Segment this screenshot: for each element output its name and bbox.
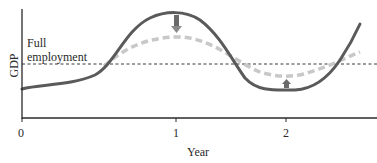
up-arrow-icon (282, 79, 291, 88)
down-arrow-icon (171, 15, 182, 33)
y-axis-label: GDP (7, 46, 22, 86)
x-tick-label-1: 1 (173, 126, 179, 140)
x-axis-label: Year (187, 145, 209, 159)
x-tick-label-0: 0 (18, 126, 24, 140)
full-employment-label-line1: Full (27, 36, 46, 50)
full-employment-label-line2: employment (27, 50, 87, 64)
gdp-business-cycle-diagram: GDP Full employment 0 1 2 Year (0, 0, 377, 163)
x-tick-label-2: 2 (283, 126, 289, 140)
chart-canvas (0, 0, 377, 163)
